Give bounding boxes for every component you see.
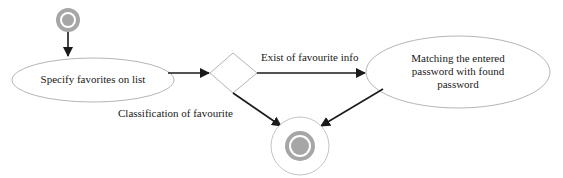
activity-diagram: Specify favorites on list Matching the e… <box>0 0 563 178</box>
activity-matching-label: Matching the entered password with found… <box>366 52 550 91</box>
edge-decision-to-end <box>233 93 281 126</box>
edge-matching-to-end <box>321 89 383 126</box>
final-node <box>271 117 329 175</box>
initial-node <box>56 8 80 32</box>
matching-label-line-1: Matching the entered <box>366 52 550 65</box>
activity-specify-label: Specify favorites on list <box>12 73 174 86</box>
decision-node <box>210 53 257 93</box>
matching-label-line-3: password <box>366 78 550 91</box>
edge-label-classification: Classification of favourite <box>118 107 233 120</box>
edge-label-exist-favourite: Exist of favourite info <box>261 51 358 64</box>
matching-label-line-2: password with found <box>366 65 550 78</box>
